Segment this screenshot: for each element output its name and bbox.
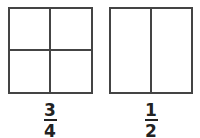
quarters-horizontal-divider bbox=[8, 49, 93, 51]
fraction-one-half: 1 2 bbox=[136, 102, 166, 138]
halves-vertical-divider bbox=[150, 7, 152, 94]
fraction-denominator: 4 bbox=[35, 123, 65, 138]
fraction-numerator: 1 bbox=[136, 102, 166, 118]
fraction-denominator: 2 bbox=[136, 123, 166, 138]
fraction-three-quarters: 3 4 bbox=[35, 102, 65, 138]
fraction-numerator: 3 bbox=[35, 102, 65, 118]
